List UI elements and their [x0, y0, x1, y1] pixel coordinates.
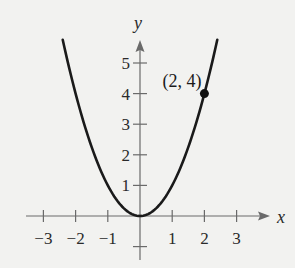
x-tick-label: −2: [67, 229, 85, 248]
y-tick-label: 4: [122, 85, 131, 104]
point-label: (2, 4): [162, 71, 201, 92]
x-tick-label: 2: [200, 229, 209, 248]
annotations: (2, 4): [162, 71, 209, 99]
y-tick-label: 3: [122, 115, 131, 134]
x-tick-label: −1: [99, 229, 117, 248]
y-ticks: 12345: [122, 54, 148, 195]
x-tick-label: 1: [168, 229, 177, 248]
parabola-chart: x y −3−2−1123 12345 (2, 4): [0, 0, 295, 268]
x-tick-label: −3: [34, 229, 52, 248]
y-axis-title: y: [132, 13, 142, 33]
y-tick-label: 2: [122, 146, 131, 165]
y-tick-label: 5: [122, 54, 131, 73]
x-tick-label: 3: [232, 229, 241, 248]
x-axis-title: x: [276, 207, 285, 227]
y-tick-label: 1: [122, 176, 131, 195]
